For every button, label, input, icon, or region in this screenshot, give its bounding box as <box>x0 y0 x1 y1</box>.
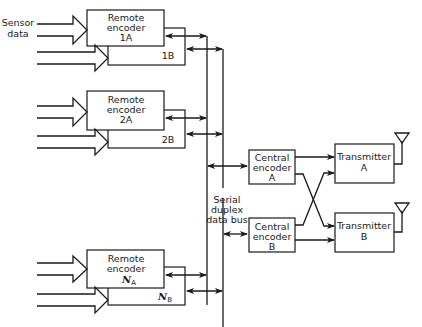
transmitter-a-id: A <box>361 162 368 173</box>
bus-label-line3: data bus <box>206 214 247 225</box>
antenna-a-icon <box>394 133 409 164</box>
encoder-transmitter-links <box>295 157 334 240</box>
remote-encoder-n-group: Remote encoder NA NB <box>37 250 185 313</box>
sensor-input-arrow-nb <box>37 287 108 313</box>
sensor-data-label-line1: Sensor <box>2 17 35 28</box>
sensor-input-arrow-2b <box>37 129 108 155</box>
sensor-data-label-line2: data <box>7 28 28 39</box>
sensor-input-arrow-na <box>37 256 87 282</box>
transmitter-a-label: Transmitter <box>336 151 391 162</box>
sensor-input-arrow-1b <box>37 45 108 71</box>
central-encoder-a-id: A <box>269 172 276 183</box>
remote-encoder-2b-id: 2B <box>162 134 175 145</box>
sensor-input-arrow-2a <box>37 98 87 126</box>
remote-encoder-na-label: encoder <box>107 263 146 274</box>
transmitter-b-id: B <box>361 231 368 242</box>
remote-encoder-2-group: Remote encoder 2A 2B <box>37 91 185 155</box>
remote-encoder-1a-id: 1A <box>120 32 133 43</box>
central-encoder-b-id: B <box>269 241 276 252</box>
remote-encoder-1b-id: 1B <box>162 50 175 61</box>
transmitter-b-label: Transmitter <box>336 220 391 231</box>
remote-encoder-1-group: Remote encoder 1A 1B <box>37 10 185 71</box>
sensor-input-arrow-1a <box>37 16 87 44</box>
antenna-b-icon <box>394 203 409 232</box>
remote-encoder-2a-id: 2A <box>120 114 133 125</box>
block-diagram: Sensor data Remote encoder 1A 1B Remote … <box>0 0 422 327</box>
